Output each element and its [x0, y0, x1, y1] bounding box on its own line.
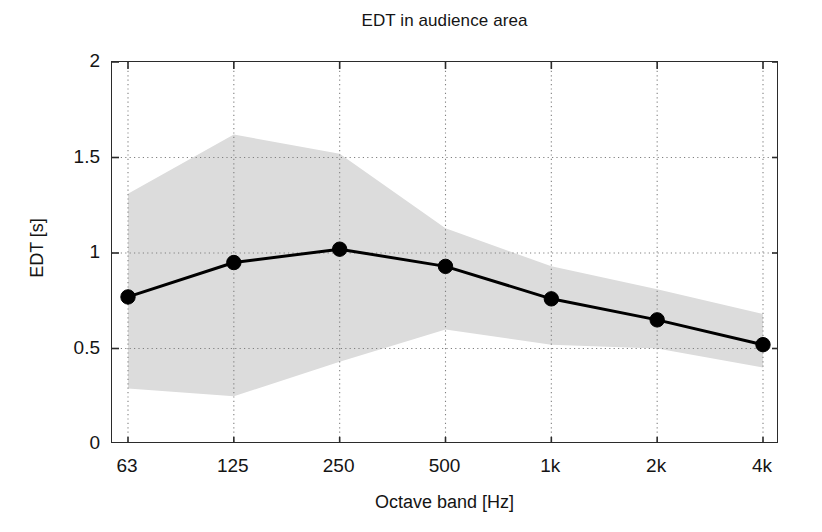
- x-axis-tick-labels: 631252505001k2k4k: [0, 0, 822, 532]
- x-tick-label-4: 1k: [505, 456, 595, 475]
- y-axis-title: EDT [s]: [27, 178, 47, 318]
- x-tick-label-1: 125: [188, 456, 278, 475]
- x-tick-label-3: 500: [400, 456, 490, 475]
- x-axis-title: Octave band [Hz]: [111, 491, 778, 513]
- figure-canvas: EDT in audience area 00.511.52 631252505…: [0, 0, 822, 532]
- x-tick-label-0: 63: [82, 456, 172, 475]
- x-tick-label-5: 2k: [611, 456, 701, 475]
- x-tick-label-6: 4k: [717, 456, 807, 475]
- x-tick-label-2: 250: [294, 456, 384, 475]
